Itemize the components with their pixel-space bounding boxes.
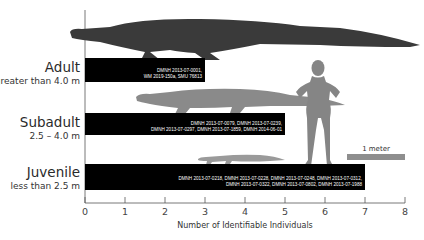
category-range-juvenile: less than 2.5 m: [10, 181, 80, 191]
bar-label-subadult-line-1: DMNH 2013-07-0079, DMNH 2013-07-0239,: [191, 121, 282, 126]
category-title-juvenile: Juvenile: [26, 164, 80, 180]
category-title-adult: Adult: [45, 59, 80, 75]
x-tick-label-8: 8: [402, 206, 408, 217]
human-silhouette: [296, 60, 340, 166]
x-tick-label-1: 1: [122, 206, 128, 217]
bar-label-adult-line-2: WM 2019-150a, SMU 76813: [144, 74, 203, 79]
scale-bar-label: 1 meter: [362, 145, 390, 153]
bar-label-subadult-line-2: DMNH 2013-07-0297, DMNH 2013-07-1859, DM…: [151, 127, 282, 132]
adult-crocodile-silhouette: [70, 19, 420, 62]
x-tick-label-5: 5: [282, 206, 288, 217]
juvenile-crocodile-silhouette: [198, 155, 285, 165]
bar-label-adult-line-1: DMNH 2013-07-0001,: [157, 68, 202, 73]
x-tick-label-3: 3: [202, 206, 208, 217]
category-title-subadult: Subadult: [20, 114, 80, 130]
chart: DMNH 2013-07-0001,WM 2019-150a, SMU 7681…: [0, 0, 424, 240]
x-tick-label-0: 0: [82, 206, 88, 217]
category-range-subadult: 2.5 – 4.0 m: [30, 131, 80, 141]
category-range-adult: greater than 4.0 m: [0, 76, 80, 86]
x-tick-label-6: 6: [322, 206, 328, 217]
x-axis-title: Number of Identifiable Individuals: [177, 221, 313, 230]
scale-bar: [347, 154, 405, 160]
x-tick-label-2: 2: [162, 206, 168, 217]
x-tick-label-7: 7: [362, 206, 368, 217]
x-axis-ticks: 012345678: [82, 197, 408, 217]
bar-label-juvenile-line-2: DMNH 2013-07-0322, DMNH 2013-07-0802, DM…: [226, 182, 363, 187]
x-tick-label-4: 4: [242, 206, 248, 217]
bar-label-juvenile-line-1: DMNH 2013-07-0218, DMNH 2013-07-0228, DM…: [178, 176, 362, 181]
